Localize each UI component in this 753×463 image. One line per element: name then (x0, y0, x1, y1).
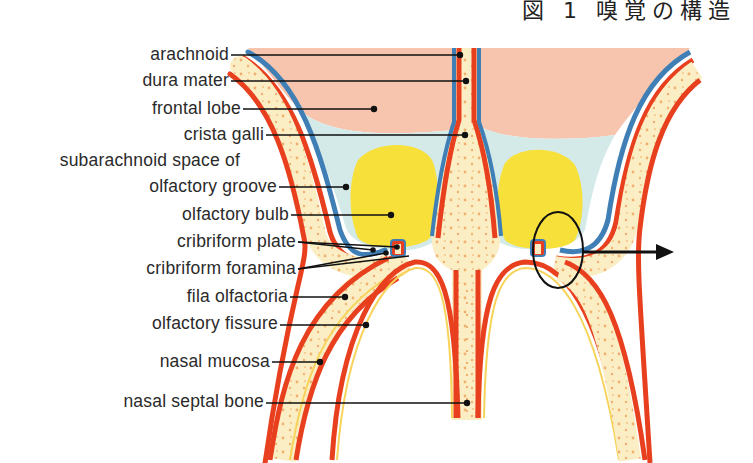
label-frontal-lobe: frontal lobe (152, 98, 241, 119)
label-cribriform-plate: cribriform plate (177, 231, 296, 252)
label-subarachnoid-space-line1: subarachnoid space of (60, 150, 240, 171)
label-subarachnoid-space-line2: olfactory groove (149, 176, 277, 197)
label-crista-galli: crista galli (184, 124, 264, 145)
olfactory-anatomy-diagram (0, 0, 753, 463)
label-dura-mater: dura mater (142, 70, 229, 91)
label-nasal-mucosa: nasal mucosa (160, 351, 270, 372)
label-olfactory-fissure: olfactory fissure (152, 313, 278, 334)
label-fila-olfactoria: fila olfactoria (187, 286, 288, 307)
label-nasal-septal-bone: nasal septal bone (123, 391, 264, 412)
label-arachnoid: arachnoid (150, 44, 229, 65)
label-cribriform-foramina: cribriform foramina (146, 258, 296, 279)
label-olfactory-bulb: olfactory bulb (182, 204, 289, 225)
right-nasal-arch (478, 262, 645, 460)
